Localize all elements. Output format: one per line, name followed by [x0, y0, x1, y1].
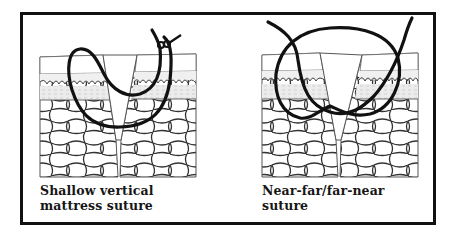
caption-line: Shallow vertical — [40, 183, 154, 198]
caption-near-far-far-near: Near-far/far-near suture — [262, 183, 385, 213]
caption-shallow-vertical-mattress: Shallow vertical mattress suture — [40, 183, 154, 213]
caption-line: mattress suture — [40, 198, 154, 213]
left-skin-diagram — [40, 30, 196, 177]
caption-line: Near-far/far-near — [262, 183, 385, 198]
knot-icon — [158, 35, 181, 48]
caption-line: suture — [262, 198, 385, 213]
right-skin-diagram — [262, 18, 418, 177]
